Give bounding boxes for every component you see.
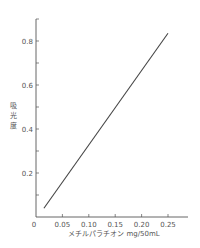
x-tick-label: 0.15: [107, 221, 123, 229]
y-tick-label: 0.4: [22, 126, 34, 134]
y-axis-label-char: 光: [10, 111, 17, 120]
x-axis-label: メチルパラチオン mg/50mL: [68, 230, 160, 238]
y-axis-label: 吸光度: [10, 102, 17, 130]
y-tick-label: 0.2: [22, 170, 33, 178]
calibration-chart: 0.20.40.60.800.050.100.150.200.25 メチルパラチ…: [0, 0, 200, 248]
y-tick-label: 0.6: [22, 82, 34, 90]
ticks: 0.20.40.60.800.050.100.150.200.25: [22, 19, 176, 229]
data-series: [44, 33, 168, 208]
x-tick-label: 0.20: [134, 221, 150, 229]
x-tick-label: 0.25: [160, 221, 176, 229]
x-tick-label: 0.10: [81, 221, 97, 229]
calibration-line: [44, 33, 168, 208]
y-axis-label-char: 吸: [10, 102, 17, 110]
x-tick-label: 0.05: [55, 221, 71, 229]
y-tick-label: 0.8: [22, 38, 33, 46]
x-tick-label: 0: [32, 221, 36, 229]
y-axis-label-char: 度: [10, 121, 17, 130]
